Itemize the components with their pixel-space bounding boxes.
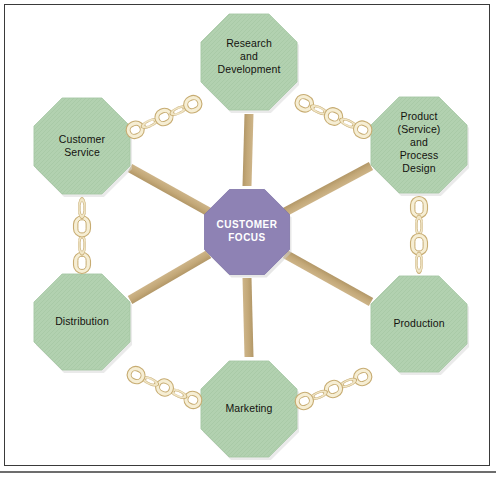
- node-marketing[interactable]: [201, 361, 299, 460]
- spoke-distribution: [128, 250, 212, 304]
- chain-distribution-to-customer-service: [74, 198, 91, 274]
- diagram-stage: Research and DevelopmentProduct (Service…: [0, 0, 496, 478]
- chain-product-design-to-production: [411, 197, 428, 274]
- spoke-research-and-development: [243, 114, 254, 186]
- center-node-group: [205, 190, 292, 278]
- chain-link: [78, 198, 85, 219]
- node-research-and-development[interactable]: [201, 14, 299, 113]
- chain-link: [415, 252, 422, 273]
- chain-link: [152, 106, 176, 129]
- node-product-service-and-process-design[interactable]: [371, 97, 469, 196]
- node-customer-service[interactable]: [34, 98, 132, 197]
- center-node[interactable]: [205, 190, 292, 278]
- diagram-svg: [0, 0, 496, 478]
- chain-production-to-marketing: [293, 366, 375, 413]
- chain-link: [322, 378, 345, 401]
- spoke-customer-service: [128, 164, 211, 216]
- chain-link: [181, 93, 205, 116]
- chain-customer-service-to-research: [123, 93, 204, 142]
- node-production[interactable]: [371, 276, 469, 375]
- node-distribution[interactable]: [34, 274, 132, 373]
- spoke-production: [283, 250, 373, 306]
- chain-research-to-product-design: [292, 92, 374, 142]
- chain-link: [292, 92, 316, 115]
- chain-link: [153, 376, 176, 399]
- chain-link: [322, 105, 346, 128]
- spoke-product-service-and-process-design: [283, 162, 373, 216]
- chain-marketing-to-distribution: [124, 364, 204, 412]
- chain-link: [124, 364, 147, 387]
- diagram-page: Research and DevelopmentProduct (Service…: [0, 0, 496, 478]
- chain-link: [351, 366, 374, 389]
- spoke-marketing: [243, 278, 254, 357]
